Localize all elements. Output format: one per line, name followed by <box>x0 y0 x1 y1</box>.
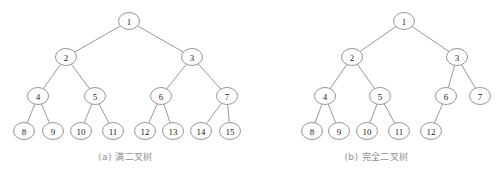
tree-node-11: 11 <box>389 123 410 140</box>
tree-edge-2-4 <box>43 64 60 88</box>
node-label: 12 <box>427 127 436 137</box>
tree-edge-1-2 <box>360 27 396 52</box>
tree-node-7: 7 <box>470 88 491 105</box>
tree-node-6: 6 <box>436 88 457 105</box>
tree-edge-6-12 <box>434 104 442 123</box>
node-label: 8 <box>22 127 27 137</box>
tree-node-5: 5 <box>370 88 391 105</box>
tree-edge-7-15 <box>228 104 230 122</box>
node-label: 4 <box>323 92 328 102</box>
tree-edge-1-3 <box>412 26 449 51</box>
tree-edge-1-2 <box>75 26 121 52</box>
tree-node-1: 1 <box>394 13 415 30</box>
node-label: 6 <box>159 92 164 102</box>
tree-edge-2-4 <box>330 64 347 88</box>
tree-diagram-canvas: 123456789101112131415123456789101112 <box>0 0 502 171</box>
tree-edges <box>315 26 475 123</box>
tree-edge-2-5 <box>357 64 374 88</box>
tree-node-6: 6 <box>151 88 172 105</box>
tree-node-14: 14 <box>191 123 212 140</box>
tree-node-2: 2 <box>56 49 77 66</box>
tree-node-8: 8 <box>14 123 35 140</box>
tree-node-4: 4 <box>315 88 336 105</box>
node-label: 9 <box>337 127 342 137</box>
tree-node-12: 12 <box>135 123 156 140</box>
tree-node-5: 5 <box>85 88 106 105</box>
node-label: 10 <box>77 127 87 137</box>
node-label: 1 <box>402 17 407 27</box>
tree-node-9: 9 <box>43 123 64 140</box>
node-label: 13 <box>169 127 179 137</box>
tree-node-3: 3 <box>182 49 203 66</box>
tree-node-10: 10 <box>71 123 92 140</box>
tree-node-8: 8 <box>302 123 323 140</box>
caption-full-binary-tree: (a) 满二叉树 <box>0 150 251 163</box>
tree-node-10: 10 <box>357 123 378 140</box>
node-label: 1 <box>127 17 132 27</box>
node-label: 3 <box>190 53 195 63</box>
tree-edge-3-6 <box>448 65 454 87</box>
tree-node-3: 3 <box>447 49 468 66</box>
tree-node-15: 15 <box>220 123 241 140</box>
tree-full-binary-tree: 123456789101112131415 <box>14 13 241 140</box>
tree-edge-4-9 <box>41 104 49 123</box>
tree-edge-3-7 <box>462 65 476 89</box>
node-label: 3 <box>455 53 460 63</box>
tree-node-1: 1 <box>119 13 140 30</box>
node-label: 11 <box>395 127 404 137</box>
tree-complete-binary-tree: 123456789101112 <box>302 13 491 140</box>
node-label: 12 <box>141 127 150 137</box>
tree-edge-2-5 <box>71 64 89 88</box>
tree-edge-5-10 <box>84 104 92 123</box>
tree-node-7: 7 <box>217 88 238 105</box>
tree-edge-3-7 <box>198 64 221 89</box>
tree-edge-6-13 <box>164 104 170 123</box>
tree-node-11: 11 <box>103 123 124 140</box>
tree-node-4: 4 <box>28 88 49 105</box>
tree-edges <box>27 26 229 124</box>
binary-tree-figure: 123456789101112131415123456789101112 (a)… <box>0 0 502 171</box>
tree-node-12: 12 <box>421 123 442 140</box>
node-label: 2 <box>64 53 69 63</box>
node-label: 2 <box>350 53 355 63</box>
node-label: 5 <box>378 92 383 102</box>
node-label: 11 <box>109 127 118 137</box>
node-label: 10 <box>363 127 373 137</box>
tree-node-13: 13 <box>163 123 184 140</box>
tree-edge-4-9 <box>328 104 336 123</box>
tree-node-2: 2 <box>342 49 363 66</box>
tree-edge-7-14 <box>206 103 221 123</box>
tree-edge-6-12 <box>149 104 158 123</box>
tree-edge-1-3 <box>138 26 184 52</box>
node-label: 5 <box>93 92 98 102</box>
tree-edge-4-8 <box>315 104 322 123</box>
tree-edge-4-8 <box>27 104 35 123</box>
node-label: 15 <box>226 127 236 137</box>
node-label: 4 <box>36 92 41 102</box>
node-label: 7 <box>225 92 230 102</box>
node-label: 6 <box>444 92 449 102</box>
tree-edge-5-11 <box>384 104 395 123</box>
tree-edge-5-11 <box>99 104 109 123</box>
node-label: 14 <box>197 127 207 137</box>
node-label: 7 <box>478 92 483 102</box>
node-label: 9 <box>51 127 56 137</box>
tree-node-9: 9 <box>329 123 350 140</box>
node-label: 8 <box>310 127 315 137</box>
tree-edge-3-6 <box>167 64 187 89</box>
tree-edge-5-10 <box>370 104 377 123</box>
caption-complete-binary-tree: (b) 完全二叉树 <box>251 150 502 163</box>
